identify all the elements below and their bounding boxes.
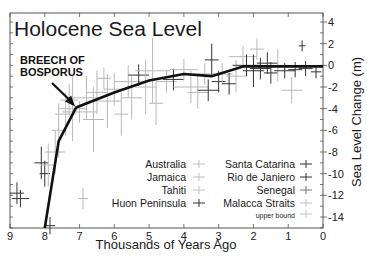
y-tick-label: -10: [328, 168, 344, 180]
y-tick-label: -2: [328, 81, 338, 93]
legend-marker: [300, 186, 312, 194]
x-axis-label: Thousands of Years Ago: [96, 237, 237, 252]
y-tick-label: 4: [328, 16, 334, 28]
y-tick-label: 2: [328, 38, 334, 50]
plot-area: 9876543210420-2-4-6-8-10-12-14AustraliaJ…: [7, 13, 344, 242]
legend-marker: [300, 199, 312, 207]
data-point: [288, 62, 302, 77]
data-point: [135, 38, 170, 103]
legend-label: Tahiti: [161, 184, 186, 196]
legend-label: Huon Peninsula: [112, 197, 186, 209]
y-tick-label: -8: [328, 146, 338, 158]
legend-label: upper bound: [256, 212, 295, 220]
y-tick-label: 0: [328, 59, 334, 71]
legend-label: Senegal: [256, 184, 295, 196]
y-tick-label: -12: [328, 189, 344, 201]
data-point: [93, 74, 121, 128]
data-point: [73, 76, 101, 119]
legend-marker: [300, 210, 312, 218]
x-tick-label: 7: [76, 230, 82, 242]
x-tick-label: 2: [250, 230, 256, 242]
legend-label: Rio de Janiero: [227, 171, 295, 183]
x-tick-label: 9: [7, 230, 13, 242]
x-tick-label: 8: [42, 230, 48, 242]
data-point: [114, 65, 142, 98]
y-tick-label: -4: [328, 103, 338, 115]
legend-marker: [193, 186, 205, 194]
legend-marker: [193, 160, 205, 168]
data-point: [170, 59, 198, 81]
data-point: [12, 190, 29, 207]
data-point: [281, 77, 302, 103]
chart-title: Holocene Sea Level: [14, 17, 202, 40]
y-tick-label: -14: [328, 211, 344, 223]
sea-level-chart: 9876543210420-2-4-6-8-10-12-14AustraliaJ…: [0, 0, 367, 258]
annotation-arrow-shaft: [52, 83, 70, 101]
data-point: [34, 147, 48, 180]
legend-marker: [193, 173, 205, 181]
legend-marker: [193, 199, 205, 207]
data-point: [205, 44, 219, 76]
legend-label: Australia: [145, 158, 186, 170]
data-point: [78, 188, 88, 210]
legend-marker: [300, 160, 312, 168]
data-point: [114, 92, 128, 135]
annotation-line-1: BREECH OF: [20, 54, 85, 66]
x-tick-label: 1: [285, 230, 291, 242]
y-axis-label: Sea Level Change (m): [349, 57, 364, 187]
data-point: [198, 79, 219, 101]
data-point: [97, 68, 111, 90]
legend: AustraliaJamaicaTahitiHuon PeninsulaSant…: [112, 158, 312, 220]
data-point: [299, 61, 313, 76]
annotation-line-2: BOSPORUS: [20, 66, 83, 78]
legend-label: Malacca Straits: [223, 197, 295, 209]
y-tick-label: -6: [328, 124, 338, 136]
legend-label: Santa Catarina: [225, 158, 295, 170]
data-point: [299, 40, 306, 51]
data-point: [149, 82, 163, 125]
legend-marker: [300, 173, 312, 181]
data-point: [10, 182, 24, 204]
x-tick-label: 0: [320, 230, 326, 242]
legend-label: Jamaica: [147, 171, 186, 183]
